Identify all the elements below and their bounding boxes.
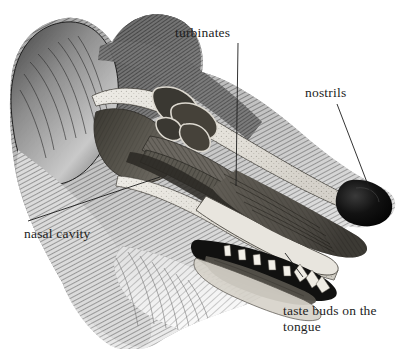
figure-canvas: turbinates nostrils nasal cavity taste b… <box>0 0 403 349</box>
label-nostrils: nostrils <box>305 85 346 101</box>
label-taste-buds: taste buds on the tongue <box>283 303 377 335</box>
label-turbinates: turbinates <box>175 25 230 41</box>
anatomy-illustration <box>0 0 403 349</box>
label-nasal-cavity: nasal cavity <box>24 226 91 242</box>
